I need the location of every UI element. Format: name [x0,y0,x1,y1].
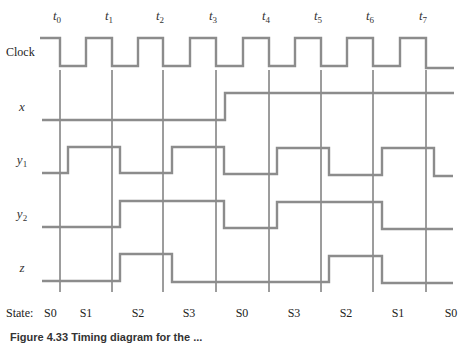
time-marker-labels: t0t1t2t3t4t5t6t7 [53,8,428,25]
waveform-z [42,254,453,283]
signal-label-x: x [18,99,25,114]
state-prefix-label: State: [6,306,33,320]
state-label-2: S2 [132,306,145,320]
waveform-Clock [40,38,454,68]
time-marker-lines [60,70,426,292]
time-label-t0: t0 [53,8,62,25]
state-label-7: S1 [392,306,405,320]
time-label-t7: t7 [419,8,428,25]
time-label-t4: t4 [262,8,271,25]
figure-caption: Figure 4.33 Timing diagram for the ... [10,331,202,343]
time-label-t2: t2 [156,8,164,25]
signal-labels: Clockxy1y2z [6,45,35,275]
signal-label-clock: Clock [6,45,35,59]
state-label-4: S0 [236,306,249,320]
signal-waveforms [40,38,454,283]
waveform-y2 [42,201,453,229]
state-label-5: S3 [288,306,301,320]
state-sequence-row: State:S0S1S2S3S0S3S2S1S0 [6,306,457,320]
state-label-3: S3 [183,306,196,320]
state-label-0: S0 [44,306,57,320]
waveform-x [42,93,454,120]
signal-label-y2: y2 [15,206,27,223]
signal-label-z: z [18,260,24,275]
time-label-t1: t1 [105,8,113,25]
waveform-y1 [42,147,453,176]
state-label-6: S2 [340,306,353,320]
time-label-t5: t5 [314,8,323,25]
state-label-8: S0 [445,306,458,320]
state-label-1: S1 [80,306,93,320]
time-label-t6: t6 [366,8,375,25]
signal-label-y1: y1 [15,152,27,169]
time-label-t3: t3 [209,8,218,25]
